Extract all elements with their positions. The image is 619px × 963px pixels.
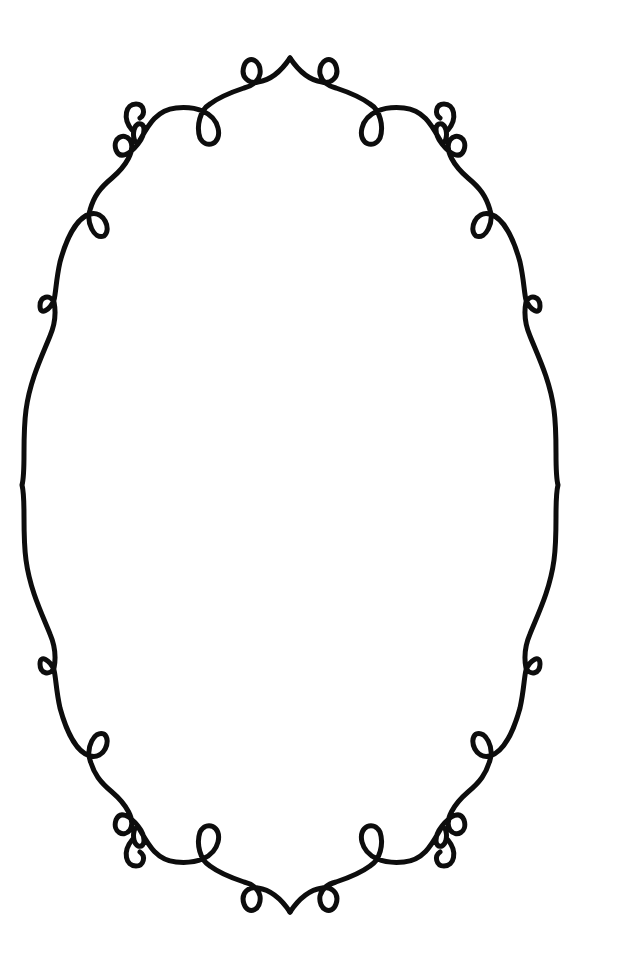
ornamental-oval-frame bbox=[0, 0, 619, 963]
left-scroll-curls bbox=[126, 104, 143, 866]
frame-right-half bbox=[290, 58, 558, 912]
frame-left-half bbox=[22, 58, 290, 912]
frame-outline-left-half bbox=[22, 58, 290, 912]
frame-outline-right-half bbox=[290, 58, 558, 912]
